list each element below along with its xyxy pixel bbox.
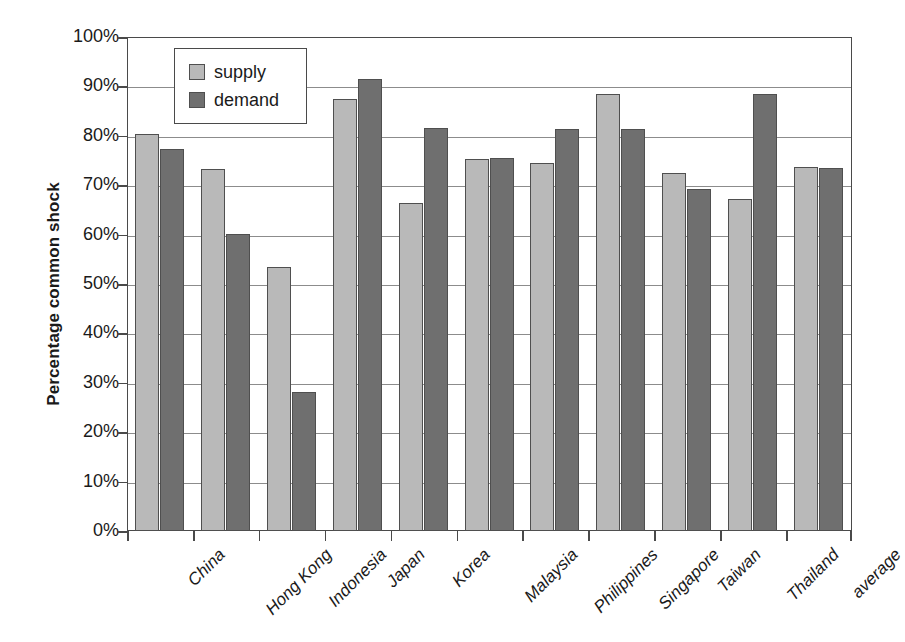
x-axis-ticks xyxy=(127,531,852,543)
x-axis-tick-label: Thailand xyxy=(783,545,843,605)
x-axis-tick-mark xyxy=(391,531,393,541)
x-axis-tick-label: Malaysia xyxy=(520,545,582,607)
bar-supply xyxy=(399,203,423,531)
y-axis-tick-label: 20% xyxy=(51,421,119,442)
y-axis-tick-mark xyxy=(118,482,127,484)
y-axis-tick-mark xyxy=(118,432,127,434)
y-axis-tick-label: 50% xyxy=(51,273,119,294)
bar-demand xyxy=(490,158,514,531)
y-axis-tick-label: 90% xyxy=(51,75,119,96)
y-axis-tick-label: 60% xyxy=(51,224,119,245)
y-axis-tick-label: 30% xyxy=(51,372,119,393)
x-axis-tick-label: Taiwan xyxy=(714,545,766,597)
y-axis-tick-mark xyxy=(118,37,127,39)
bar-demand xyxy=(292,392,316,531)
legend-swatch-demand xyxy=(189,92,205,108)
y-axis-tick-label: 100% xyxy=(51,26,119,47)
bar-supply xyxy=(794,167,818,531)
bar-group xyxy=(522,37,588,531)
bar-demand xyxy=(358,79,382,531)
y-axis-tick-labels: 100%90%80%70%60%50%40%30%20%10%0% xyxy=(45,37,119,531)
x-axis-tick-label: Korea xyxy=(448,545,494,591)
x-axis-tick-mark xyxy=(193,531,195,541)
x-axis-tick-mark xyxy=(522,531,524,541)
bar-supply xyxy=(728,199,752,531)
x-axis-tick-mark xyxy=(457,531,459,541)
x-axis-tick-mark xyxy=(127,531,129,541)
x-axis-tick-mark xyxy=(588,531,590,541)
x-axis-tick-label: Hong Kong xyxy=(262,545,336,619)
bar-group xyxy=(786,37,852,531)
y-axis-tick-label: 0% xyxy=(51,520,119,541)
y-axis-tick-label: 80% xyxy=(51,125,119,146)
bar-supply xyxy=(333,99,357,531)
x-axis-tick-mark xyxy=(325,531,327,541)
bar-supply xyxy=(267,267,291,531)
x-axis-tick-label: Japan xyxy=(382,545,429,592)
bar-demand xyxy=(819,168,843,531)
bar-group xyxy=(720,37,786,531)
x-axis-tick-mark xyxy=(720,531,722,541)
y-axis-tick-mark xyxy=(118,284,127,286)
x-axis-tick-mark xyxy=(786,531,788,541)
bar-demand xyxy=(555,129,579,531)
bar-demand xyxy=(160,149,184,531)
bar-supply xyxy=(596,94,620,531)
y-axis-tick-mark xyxy=(118,333,127,335)
y-axis-tick-mark xyxy=(118,136,127,138)
x-axis-tick-mark xyxy=(654,531,656,541)
bar-demand xyxy=(424,128,448,531)
bar-group xyxy=(391,37,457,531)
y-axis-tick-mark xyxy=(118,531,127,533)
bar-group xyxy=(457,37,523,531)
bar-supply xyxy=(662,173,686,531)
bar-demand xyxy=(753,94,777,531)
y-axis-tick-mark xyxy=(118,86,127,88)
legend-item: supply xyxy=(189,58,306,86)
x-axis-tick-mark xyxy=(850,531,852,541)
bar-supply xyxy=(201,169,225,531)
legend-label: supply xyxy=(214,63,266,81)
bar-supply xyxy=(135,134,159,531)
bar-group xyxy=(588,37,654,531)
bar-demand xyxy=(687,189,711,531)
x-axis-tick-label: China xyxy=(184,545,230,591)
x-axis-tick-label: Philippines xyxy=(591,545,663,617)
x-axis-tick-labels: ChinaHong KongIndonesiaJapanKoreaMalaysi… xyxy=(127,545,852,642)
bar-group xyxy=(654,37,720,531)
legend-swatch-supply xyxy=(189,64,205,80)
y-axis-tick-label: 10% xyxy=(51,471,119,492)
y-axis-tick-mark xyxy=(118,235,127,237)
x-axis-tick-label: average xyxy=(848,545,905,603)
legend-item: demand xyxy=(189,86,306,114)
bar-supply xyxy=(530,163,554,531)
bar-demand xyxy=(621,129,645,531)
bar-demand xyxy=(226,234,250,531)
y-axis-tick-mark xyxy=(118,383,127,385)
legend: supplydemand xyxy=(174,48,307,124)
bar-supply xyxy=(465,159,489,531)
x-axis-tick-label: Singapore xyxy=(655,545,724,614)
x-axis-tick-mark xyxy=(259,531,261,541)
x-axis-tick-label: Indonesia xyxy=(324,545,390,611)
y-axis-tick-label: 70% xyxy=(51,174,119,195)
y-axis-tick-mark xyxy=(118,185,127,187)
legend-label: demand xyxy=(214,91,279,109)
bar-group xyxy=(325,37,391,531)
y-axis-tick-label: 40% xyxy=(51,322,119,343)
